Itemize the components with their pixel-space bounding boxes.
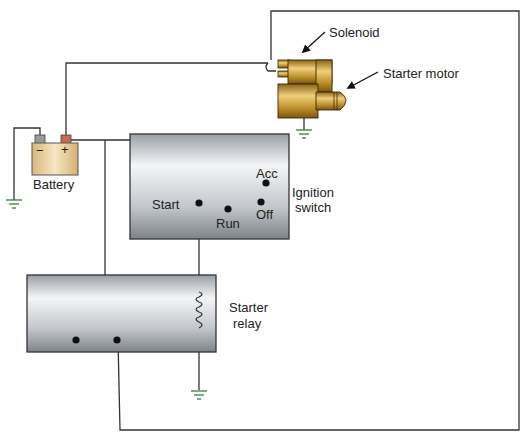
- start-position-label: Start: [152, 197, 179, 212]
- starter-motor-body: [278, 84, 318, 118]
- run-position-label: Run: [216, 216, 240, 231]
- off-position-label: Off: [256, 207, 273, 222]
- acc-position-label: Acc: [256, 166, 278, 181]
- solenoid-label: Solenoid: [329, 25, 380, 40]
- battery-positive-sign: +: [61, 142, 69, 157]
- solenoid-pointer: [303, 32, 325, 52]
- starter-relay-box: [27, 275, 216, 352]
- ignition-switch-label-line2: switch: [295, 200, 331, 215]
- ground-icon: [6, 200, 22, 208]
- battery-label: Battery: [33, 177, 74, 192]
- ground-icon: [191, 391, 207, 399]
- ignition-switch-label-line1: Ignition: [292, 185, 334, 200]
- battery-negative-sign: −: [36, 143, 44, 158]
- starter-relay-label-line1: Starter: [229, 300, 268, 315]
- starter-relay-label-line2: relay: [233, 316, 261, 331]
- starter-motor-nose: [316, 92, 346, 110]
- ignition-switch-box: [130, 134, 289, 239]
- starter-motor-pointer: [348, 72, 378, 88]
- solenoid-starter-assembly: [278, 60, 346, 118]
- ground-icon: [296, 130, 312, 138]
- starter-motor-label: Starter motor: [383, 66, 459, 81]
